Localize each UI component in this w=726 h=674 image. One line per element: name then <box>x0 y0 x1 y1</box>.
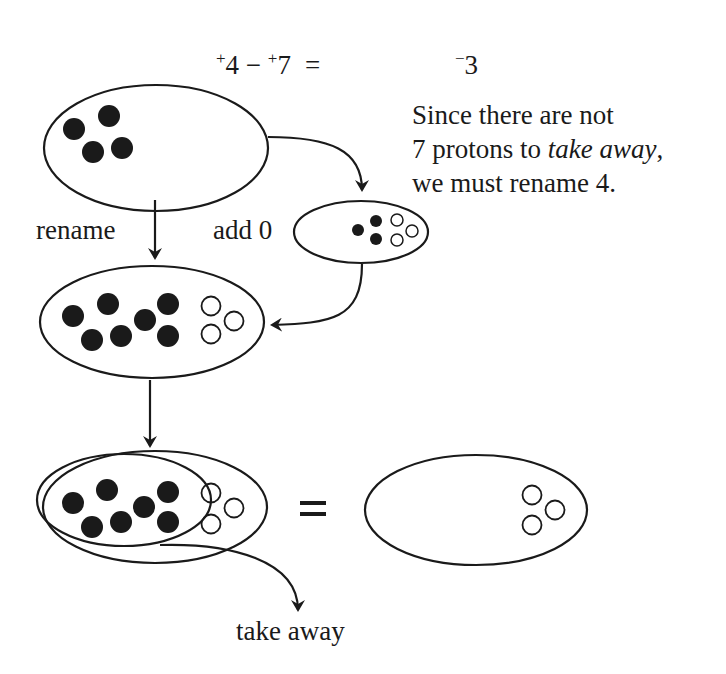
final-left-dots <box>62 479 244 538</box>
zero-pair-dots <box>352 214 418 246</box>
arrow-to-zero-pairs <box>268 137 362 190</box>
result-set-ellipse <box>365 455 587 565</box>
initial-set-ellipse <box>44 85 268 211</box>
renamed-set-dots <box>62 293 244 351</box>
result-dots <box>523 486 565 535</box>
equals-sign <box>300 503 326 514</box>
diagram-canvas <box>0 0 726 674</box>
arrow-take-away <box>160 545 298 610</box>
arrow-add-zero <box>272 264 362 325</box>
initial-protons <box>63 105 133 163</box>
